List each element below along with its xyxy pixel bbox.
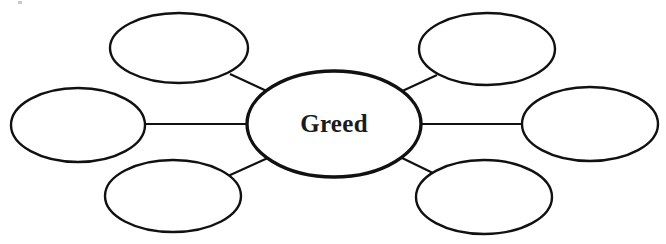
center-node[interactable]: Greed xyxy=(247,71,421,177)
node-top-left-outline[interactable] xyxy=(110,13,248,83)
node-bottom-left-outline[interactable] xyxy=(105,160,241,232)
connector-bottom-right xyxy=(398,156,437,175)
node-top-left[interactable] xyxy=(110,13,248,83)
center-node-label: Greed xyxy=(300,110,368,137)
node-top-right-outline[interactable] xyxy=(419,13,555,85)
node-bottom-left[interactable] xyxy=(105,160,241,232)
node-left[interactable] xyxy=(11,88,145,162)
word-web-diagram: Greed xyxy=(0,0,666,244)
node-right-outline[interactable] xyxy=(522,87,658,161)
connector-bottom-left xyxy=(228,157,270,176)
node-left-outline[interactable] xyxy=(11,88,145,162)
scan-artifact xyxy=(18,1,22,4)
node-bottom-right-outline[interactable] xyxy=(416,160,552,234)
node-bottom-right[interactable] xyxy=(416,160,552,234)
node-right[interactable] xyxy=(522,87,658,161)
node-top-right[interactable] xyxy=(419,13,555,85)
